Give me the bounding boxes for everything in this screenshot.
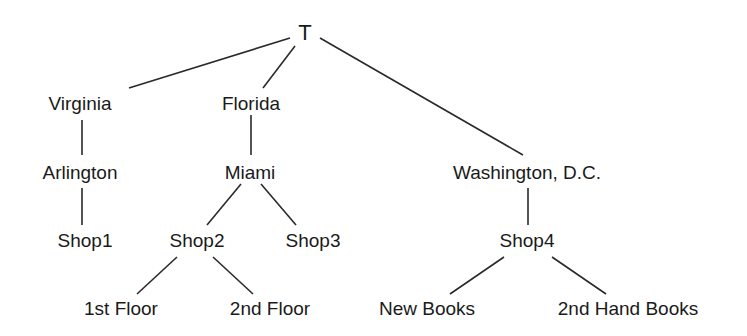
edge-shop2-floor2 — [213, 257, 253, 294]
edge-T-florida — [263, 46, 295, 88]
node-shop4: Shop4 — [500, 231, 555, 250]
node-shop3: Shop3 — [286, 231, 341, 250]
edge-shop2-floor1 — [137, 257, 177, 294]
node-root-t: T — [298, 22, 311, 44]
edge-shop4-handbooks — [552, 257, 606, 294]
node-1st-floor: 1st Floor — [84, 299, 158, 318]
node-shop2: Shop2 — [170, 231, 225, 250]
node-florida: Florida — [222, 94, 280, 113]
edge-shop4-newbooks — [450, 257, 504, 294]
edge-T-virginia — [129, 38, 290, 88]
node-miami: Miami — [225, 163, 276, 182]
tree-diagram: T Virginia Florida Washington, D.C. Arli… — [0, 0, 747, 336]
node-2nd-floor: 2nd Floor — [230, 299, 310, 318]
node-new-books: New Books — [379, 299, 475, 318]
edge-miami-shop3 — [261, 184, 296, 225]
node-2nd-hand-books: 2nd Hand Books — [558, 299, 699, 318]
edge-miami-shop2 — [207, 184, 241, 225]
node-shop1: Shop1 — [58, 231, 113, 250]
node-arlington: Arlington — [43, 163, 118, 182]
node-washington-dc: Washington, D.C. — [453, 163, 601, 182]
node-virginia: Virginia — [48, 94, 111, 113]
edge-T-washington — [320, 38, 523, 155]
